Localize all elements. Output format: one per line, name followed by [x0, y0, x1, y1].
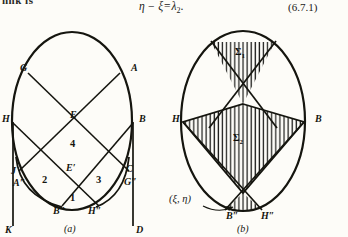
label-H-double-prime-a: H″	[88, 206, 101, 216]
equation-period: .	[181, 0, 184, 12]
label-B-a: B	[139, 114, 146, 124]
label-K-a: K	[5, 225, 12, 235]
label-G-double-prime-a: G″	[124, 177, 137, 187]
label-G-a: G	[20, 63, 27, 73]
label-J-a: J	[11, 166, 16, 176]
region-label-sigma-1: Σ1	[235, 47, 245, 60]
point-label-xi-eta: (ξ, η)	[169, 194, 191, 205]
label-D-a: D	[136, 225, 143, 235]
label-B-b: B	[315, 114, 322, 124]
region-number-2: 2	[42, 175, 47, 186]
equation-equals: =	[163, 0, 171, 12]
label-E-a: E	[70, 110, 77, 120]
caption-b: (b)	[237, 224, 249, 234]
region-label-sigma-2: Σ2	[233, 133, 243, 146]
figure-page: nnk is η − ξ = λ2. (6.7.1)	[0, 0, 348, 237]
clipped-running-text: nnk is	[2, 0, 33, 6]
equation-number: (6.7.1)	[288, 2, 317, 13]
oval-a	[12, 32, 132, 210]
region-number-3: 3	[96, 175, 101, 186]
label-B-double-prime-b: B″	[226, 211, 238, 221]
label-H-a: H	[2, 114, 10, 124]
label-C-a: C	[126, 164, 133, 174]
label-H-double-prime-b: H″	[261, 211, 274, 221]
region-number-1: 1	[70, 193, 75, 204]
label-A-a: A	[131, 63, 138, 73]
equation-lhs: η − ξ	[139, 0, 163, 12]
caption-a: (a)	[64, 224, 76, 234]
label-E-prime-a: E′	[66, 163, 75, 173]
sigma-2-subscript: 2	[240, 138, 244, 146]
region-number-4: 4	[70, 139, 75, 150]
displayed-equation: η − ξ = λ2.	[139, 1, 183, 15]
chord-G-C	[28, 73, 129, 171]
label-A-double-prime-a: A″	[13, 178, 25, 188]
sigma-1-subscript: 1	[242, 52, 246, 60]
label-H-b: H	[172, 114, 180, 124]
label-B-double-prime-a: B″	[53, 206, 65, 216]
